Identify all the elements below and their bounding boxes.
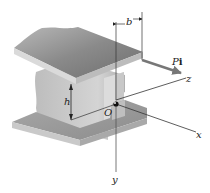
force-arrow: Pi [142, 56, 183, 73]
label-y: y [111, 174, 118, 185]
z-axis: z [116, 73, 192, 100]
label-b: b [126, 16, 132, 27]
i-beam-diagram: b h z x y O Pi [0, 0, 210, 193]
label-O: O [104, 107, 112, 118]
label-x: x [196, 129, 202, 140]
label-force-i: i [179, 56, 183, 67]
label-h: h [64, 96, 70, 107]
label-z: z [185, 73, 192, 84]
label-force: Pi [171, 56, 183, 67]
